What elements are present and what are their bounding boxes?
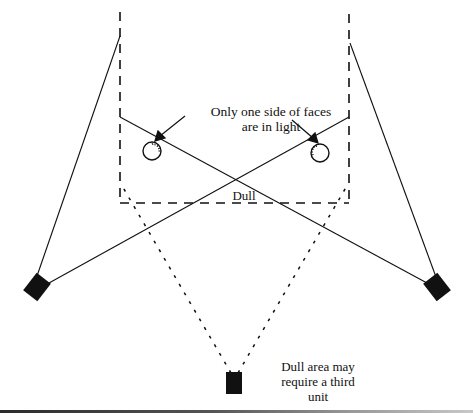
- arrow-left-shaft: [160, 116, 185, 136]
- light-beams: [37, 36, 436, 283]
- faces-annotation-line1: Only one side of faces: [196, 104, 346, 119]
- right-face: [311, 144, 329, 162]
- third-unit-beams: [121, 184, 348, 373]
- third-unit-annotation-line1: Dull area may: [258, 359, 378, 374]
- dull-label: Dull: [224, 188, 264, 203]
- faces-annotation: Only one side of faces are in light: [196, 104, 346, 134]
- lighting-diagram: [0, 0, 473, 413]
- left-light-unit: [23, 273, 51, 301]
- third-unit-annotation-line3: unit: [258, 389, 378, 404]
- third-unit-annotation: Dull area may require a third unit: [258, 359, 378, 404]
- left-light-beam-lower: [49, 117, 349, 283]
- left-face-circle: [143, 142, 161, 160]
- third-unit-beam-right: [238, 184, 348, 373]
- left-light-beam-upper: [37, 36, 120, 276]
- right-light-beam-upper: [350, 43, 436, 277]
- third-unit-annotation-line2: require a third: [258, 374, 378, 389]
- right-light-unit: [423, 273, 451, 301]
- right-light-beam-lower: [120, 117, 427, 283]
- faces-annotation-line2: are in light: [196, 119, 346, 134]
- left-face: [143, 142, 161, 160]
- third-light-unit: [226, 372, 242, 394]
